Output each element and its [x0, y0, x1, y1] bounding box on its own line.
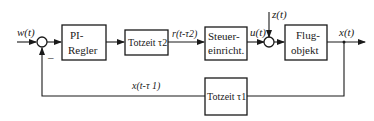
totzeit2-label: Totzeit τ2	[128, 37, 167, 48]
totzeit-tau1-block: Totzeit τ1	[205, 78, 247, 115]
flug-line1: Flug-	[296, 29, 320, 41]
summing-junction-1	[37, 37, 47, 47]
actuator-label: u(t)	[250, 26, 266, 39]
totzeit-tau2-block: Totzeit τ2	[125, 30, 168, 55]
input-label: w(t)	[17, 26, 35, 39]
summing-junction-2	[264, 37, 274, 47]
steuer-line1: Steuer-	[208, 30, 240, 42]
output-label: x(t)	[338, 26, 355, 39]
steuer-line2: einricht.	[208, 44, 245, 56]
pi-line2: Regler	[68, 44, 98, 56]
pi-regler-block: PI- Regler	[62, 25, 106, 60]
flug-line2: objekt	[291, 44, 319, 56]
flugobjekt-block: Flug- objekt	[285, 25, 327, 60]
delayed-feedback-label: x(t-τ 1)	[131, 80, 161, 92]
block-diagram: w(t) – PI- Regler Totzeit τ2 r(t-τ2) Ste…	[0, 0, 374, 121]
pi-line1: PI-	[70, 29, 84, 41]
disturbance-label: z(t)	[271, 8, 287, 21]
feedback-sign: –	[47, 51, 54, 63]
steuereinrichtung-block: Steuer- einricht.	[205, 27, 247, 60]
delayed-control-label: r(t-τ2)	[172, 28, 198, 40]
totzeit1-label: Totzeit τ1	[207, 91, 246, 102]
